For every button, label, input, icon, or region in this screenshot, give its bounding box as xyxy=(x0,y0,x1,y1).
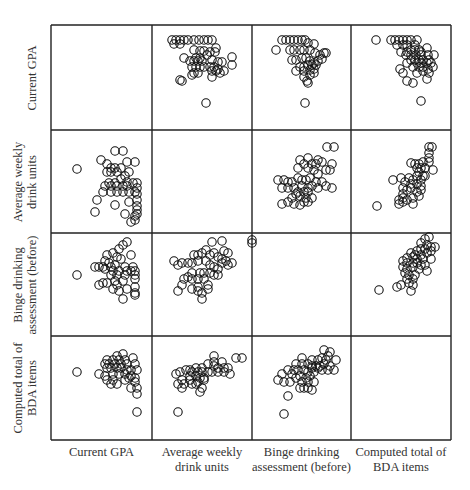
column-label: Binge drinkingassessment (before) xyxy=(252,445,352,475)
data-point xyxy=(123,158,131,166)
data-point xyxy=(301,99,309,107)
panel-r2-c0 xyxy=(73,238,139,303)
data-point xyxy=(372,36,380,44)
data-point xyxy=(375,286,383,294)
data-point xyxy=(238,354,246,362)
data-point xyxy=(304,154,312,162)
data-point xyxy=(111,201,119,209)
data-point xyxy=(402,51,410,59)
row-label: Computed total ofBDA items xyxy=(11,338,39,438)
data-point xyxy=(208,238,216,246)
data-point xyxy=(218,237,226,245)
scatter-points xyxy=(73,36,439,418)
data-point xyxy=(174,287,182,295)
data-point xyxy=(190,46,198,54)
data-point xyxy=(208,73,216,81)
panel-r3-c1 xyxy=(172,352,246,416)
data-point xyxy=(430,51,438,59)
panel-r0-c3 xyxy=(372,36,438,105)
data-point xyxy=(97,156,105,164)
data-point xyxy=(195,36,203,44)
data-point xyxy=(119,295,127,303)
data-point xyxy=(373,202,381,210)
data-point xyxy=(73,271,81,279)
column-label: Average weeklydrink units xyxy=(152,445,252,475)
data-point xyxy=(198,295,206,303)
data-point xyxy=(284,392,292,400)
data-point xyxy=(91,208,99,216)
data-point xyxy=(121,210,129,218)
row-label: Binge drinkingassessment (before) xyxy=(11,235,39,335)
row-label: Current GPA xyxy=(25,28,39,128)
data-point xyxy=(131,289,139,297)
data-point xyxy=(272,46,280,54)
panel-r2-c1 xyxy=(170,236,256,303)
data-point xyxy=(133,408,141,416)
data-point xyxy=(174,408,182,416)
data-point xyxy=(200,275,208,283)
data-point xyxy=(73,165,81,173)
data-point xyxy=(389,176,397,184)
data-point xyxy=(133,390,141,398)
data-point xyxy=(429,166,437,174)
data-point xyxy=(409,200,417,208)
panel-r3-c2 xyxy=(274,346,340,418)
data-point xyxy=(73,368,81,376)
panel-r0-c2 xyxy=(272,36,330,107)
panel-r1-c3 xyxy=(373,143,437,210)
data-point xyxy=(119,147,127,155)
column-label: Current GPA xyxy=(52,445,152,460)
panel-r1-c2 xyxy=(274,143,338,209)
data-point xyxy=(417,97,425,105)
data-point xyxy=(228,53,236,61)
data-point xyxy=(228,61,236,69)
data-point xyxy=(123,285,131,293)
panel-r0-c1 xyxy=(168,36,236,107)
panel-r3-c0 xyxy=(73,350,141,416)
data-point xyxy=(413,36,421,44)
panel-r2-c3 xyxy=(375,233,439,295)
data-point xyxy=(131,291,139,299)
data-point xyxy=(294,164,302,172)
data-point xyxy=(93,196,101,204)
data-point xyxy=(127,251,135,259)
data-point xyxy=(111,147,119,155)
scatterplot-matrix xyxy=(0,0,470,490)
data-point xyxy=(202,99,210,107)
panel-r1-c0 xyxy=(73,147,141,226)
data-point xyxy=(125,198,133,206)
data-point xyxy=(286,378,294,386)
data-point xyxy=(190,36,198,44)
data-point xyxy=(280,410,288,418)
data-point xyxy=(311,49,319,57)
column-label: Computed total ofBDA items xyxy=(351,445,451,475)
data-point xyxy=(310,40,318,48)
data-point xyxy=(131,158,139,166)
row-label: Average weeklydrink units xyxy=(11,132,39,232)
data-point xyxy=(278,370,286,378)
